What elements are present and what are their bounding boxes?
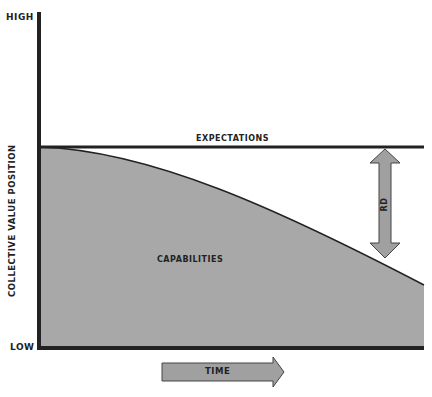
rd-gap-label: RD <box>380 198 389 212</box>
y-axis-low-label: LOW <box>10 342 35 352</box>
diagram-canvas <box>0 0 432 397</box>
expectations-label: EXPECTATIONS <box>196 134 269 143</box>
y-axis-title: COLLECTIVE VALUE POSITION <box>7 157 17 297</box>
capabilities-label: CAPABILITIES <box>157 255 223 264</box>
y-axis-high-label: HIGH <box>6 12 34 22</box>
capabilities-area <box>39 147 424 348</box>
time-label: TIME <box>205 366 230 376</box>
